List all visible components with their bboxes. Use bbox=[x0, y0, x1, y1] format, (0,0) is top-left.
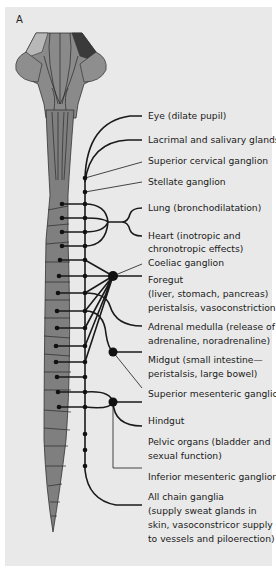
label-midgut: Midgut (small intestine—peristalsis, lar… bbox=[148, 354, 263, 379]
label-eye: Eye (dilate pupil) bbox=[148, 110, 226, 121]
label-coeliac-ganglion: Coeliac ganglion bbox=[148, 257, 224, 268]
label-stellate-ganglion: Stellate ganglion bbox=[148, 176, 226, 187]
label-inferior-mesenteric-ganglion: Inferior mesenteric ganglion bbox=[148, 471, 276, 482]
spinal-cord bbox=[44, 110, 74, 532]
superior-mesenteric-ganglion bbox=[109, 348, 118, 357]
labels: Eye (dilate pupil) Lacrimal and salivary… bbox=[148, 110, 276, 544]
brainstem bbox=[16, 33, 107, 118]
label-foregut: Foregut(liver, stomach, pancreas)perista… bbox=[148, 274, 276, 313]
label-superior-cervical-ganglion: Superior cervical ganglion bbox=[148, 155, 268, 166]
label-lung: Lung (bronchodilatation) bbox=[148, 202, 261, 213]
label-superior-mesenteric-ganglion: Superior mesenteric ganglion bbox=[148, 388, 276, 399]
coeliac-ganglion bbox=[108, 271, 118, 281]
panel-letter: A bbox=[16, 14, 23, 25]
label-hindgut: Hindgut bbox=[148, 415, 185, 426]
label-adrenal-medulla: Adrenal medulla (release ofadrenaline, n… bbox=[148, 321, 276, 346]
label-heart: Heart (inotropic andchronotropic effects… bbox=[148, 230, 243, 254]
inferior-mesenteric-ganglion bbox=[109, 398, 118, 407]
sympathetic-nervous-system-diagram: A bbox=[0, 0, 276, 570]
label-pelvic-organs: Pelvic organs (bladder andsexual functio… bbox=[148, 436, 271, 461]
label-all-chain-ganglia: All chain ganglia(supply sweat glands in… bbox=[148, 491, 275, 544]
label-lacrimal: Lacrimal and salivary glands bbox=[148, 134, 276, 145]
